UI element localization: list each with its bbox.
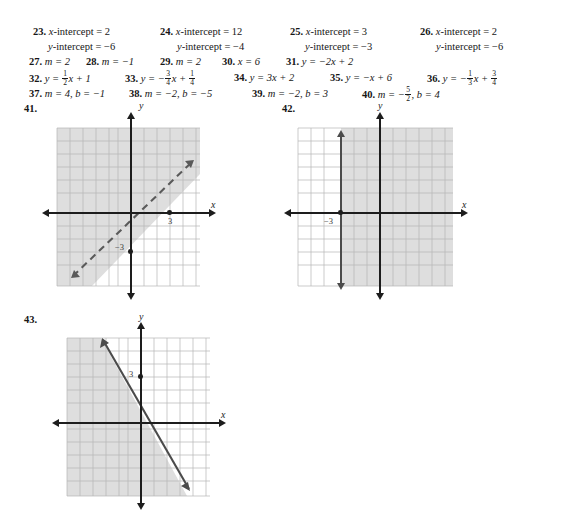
tick-label-y-43: 3 — [129, 369, 133, 379]
y-axis-43 — [140, 328, 142, 504]
y-axis-arrow-down-43 — [137, 503, 145, 510]
worksheet-page: 23. x-intercept = 2 24. x-intercept = 12… — [0, 0, 563, 516]
graph-canvas-43 — [0, 0, 563, 516]
x-axis-43 — [58, 422, 220, 424]
x-axis-arrow-right-43 — [219, 419, 226, 427]
x-axis-arrow-left-43 — [52, 419, 59, 427]
y-axis-arrow-up-43 — [137, 322, 145, 329]
intercept-point-43 — [138, 374, 143, 379]
